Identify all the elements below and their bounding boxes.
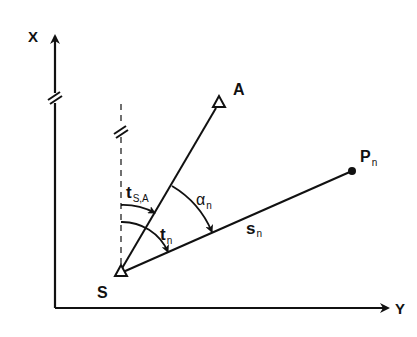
- reference-label: A: [233, 81, 245, 98]
- line-s-pn: [123, 171, 352, 272]
- axis-break-icon: [48, 92, 62, 104]
- reference-triangle-icon: [213, 96, 225, 107]
- station-label: S: [97, 284, 108, 301]
- distance-label: sn: [246, 219, 262, 239]
- target-label: Pn: [360, 148, 377, 168]
- angle-arc-orientation: [121, 205, 155, 213]
- y-axis-label: Y: [395, 300, 405, 317]
- x-axis-label: X: [28, 28, 38, 45]
- orientation-angle-label: tS,A: [126, 183, 149, 204]
- target-point-icon: [348, 167, 356, 175]
- surveying-diagram: X Y S A Pn tS,A tn αn sn: [0, 0, 417, 337]
- direction-angle-label: tn: [160, 225, 172, 246]
